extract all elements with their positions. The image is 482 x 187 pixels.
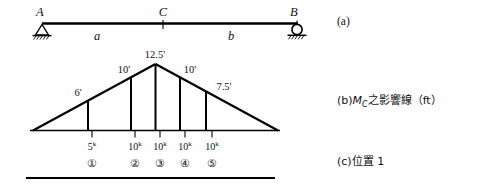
ordinate-label-4: 10': [184, 65, 196, 76]
influence-line-right-limb: [156, 64, 279, 131]
load-number-2: ②: [130, 158, 140, 169]
influence-line-diagram: [30, 64, 280, 131]
load-magnitude-3: 10k: [153, 142, 167, 152]
pin-support-icon: [33, 25, 52, 40]
caption-b-text: 之影響線（ft）: [368, 94, 442, 107]
load-unit-2: k: [138, 140, 142, 148]
roller-support-icon: [288, 24, 307, 39]
load-unit-1: k: [93, 140, 97, 148]
caption-c-text: 位置 1: [352, 155, 385, 168]
beam-label-c: C: [159, 6, 167, 19]
caption-c-prefix: (c): [337, 155, 352, 168]
load-magnitude-4: 10k: [178, 142, 192, 152]
ordinate-label-3: 12.5': [145, 50, 165, 61]
load-magnitude-1: 5k: [88, 142, 97, 152]
load-unit-5: k: [215, 140, 219, 148]
load-unit-4: k: [188, 140, 192, 148]
figure-container: A C B a b (a) 6' 10' 12.5' 10' 7.5' (b)M…: [0, 0, 482, 187]
caption-part-c: (c)位置 1: [337, 156, 384, 167]
beam-label-b: B: [290, 6, 298, 19]
load-position-diagram: [26, 131, 275, 179]
load-value-2: 10: [128, 141, 138, 152]
load-magnitude-2: 10k: [128, 142, 142, 152]
ordinate-label-5: 7.5': [216, 82, 231, 93]
dimension-label-b: b: [228, 30, 234, 43]
load-value-4: 10: [178, 141, 188, 152]
influence-line-left-limb: [33, 64, 156, 131]
load-number-4: ④: [180, 158, 190, 169]
load-magnitude-5: 10k: [205, 142, 219, 152]
load-value-5: 10: [205, 141, 215, 152]
caption-b-symbol: M: [353, 94, 363, 107]
load-number-5: ⑤: [207, 158, 217, 169]
dimension-label-a: a: [94, 30, 100, 43]
load-unit-3: k: [163, 140, 167, 148]
ordinate-label-1: 6': [74, 88, 81, 99]
load-number-3: ③: [155, 158, 165, 169]
ordinate-label-2: 10': [118, 65, 130, 76]
caption-part-a: (a): [337, 16, 350, 28]
beam-label-a: A: [36, 6, 44, 19]
caption-b-prefix: (b): [337, 94, 353, 107]
beam-diagram: [33, 20, 307, 40]
caption-part-b: (b)MC之影響線（ft）: [337, 95, 442, 106]
load-value-3: 10: [153, 141, 163, 152]
load-number-1: ①: [87, 158, 97, 169]
